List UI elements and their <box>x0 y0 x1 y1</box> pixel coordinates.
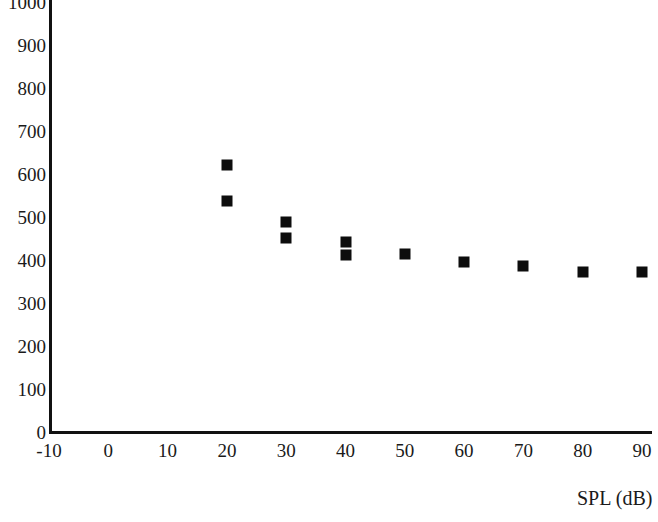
y-axis-tick-label: 800 <box>2 79 46 98</box>
x-axis-tick-label: 30 <box>277 441 296 460</box>
x-axis-tick-label: 40 <box>336 441 355 460</box>
y-axis-tick-label: 200 <box>2 337 46 356</box>
x-axis-tick-label: 50 <box>395 441 414 460</box>
x-axis-line <box>49 431 652 434</box>
data-point <box>281 216 292 227</box>
data-point <box>281 232 292 243</box>
data-point <box>340 249 351 260</box>
y-axis-tick-label: 100 <box>2 380 46 399</box>
data-point <box>577 266 588 277</box>
data-point <box>637 266 648 277</box>
data-point <box>399 248 410 259</box>
data-point <box>340 236 351 247</box>
y-axis-line <box>49 0 52 434</box>
y-axis-tick-label: 900 <box>2 36 46 55</box>
x-axis-tick-label: -10 <box>36 441 61 460</box>
y-axis-tick-label: 700 <box>2 122 46 141</box>
x-axis-tick-label: 10 <box>158 441 177 460</box>
y-axis-tick-label: 600 <box>2 165 46 184</box>
x-axis-tick-label: 90 <box>633 441 652 460</box>
y-axis-tick-labels: 01002003004005006007008009001000 <box>0 0 46 434</box>
x-axis-tick-label: 60 <box>455 441 474 460</box>
data-point <box>459 256 470 267</box>
x-axis-tick-label: 20 <box>217 441 236 460</box>
x-axis-tick-label: 70 <box>514 441 533 460</box>
plot-area: 01002003004005006007008009001000 -100102… <box>0 0 658 522</box>
x-axis-tick-label: 80 <box>573 441 592 460</box>
x-axis-tick-label: 0 <box>104 441 114 460</box>
y-axis-tick-label: 300 <box>2 294 46 313</box>
x-axis-title: SPL (dB) <box>577 487 652 509</box>
y-axis-tick-label: 400 <box>2 251 46 270</box>
data-point <box>221 195 232 206</box>
y-axis-tick-label: 0 <box>2 423 46 442</box>
scatter-chart: 01002003004005006007008009001000 -100102… <box>0 0 658 522</box>
data-point <box>221 159 232 170</box>
y-axis-tick-label: 1000 <box>2 0 46 12</box>
y-axis-tick-label: 500 <box>2 208 46 227</box>
data-point <box>518 260 529 271</box>
